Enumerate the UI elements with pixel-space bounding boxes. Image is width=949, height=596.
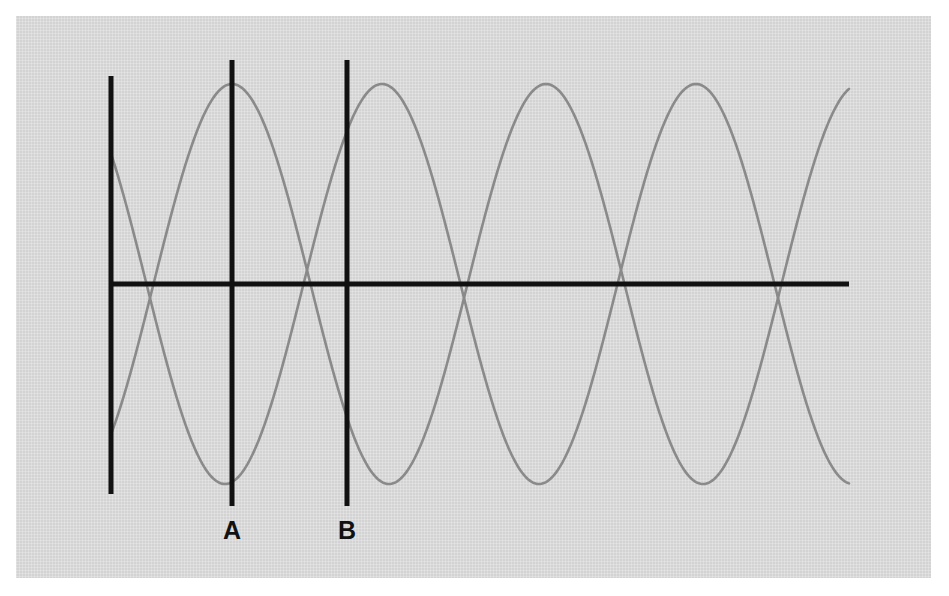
axis-group [111, 76, 849, 494]
marker-label-a: A [217, 518, 247, 543]
figure-root: A B [0, 0, 949, 596]
marker-label-b: B [332, 518, 362, 543]
plot-canvas [0, 0, 949, 596]
